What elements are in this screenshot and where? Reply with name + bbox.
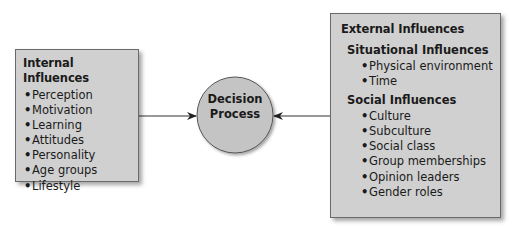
social-influences-list: Culture Subculture Social class Group me… <box>361 109 500 200</box>
external-influences-title: External Influences <box>341 22 500 37</box>
decision-process-line2: Process <box>197 107 273 122</box>
list-item: Subculture <box>361 124 500 139</box>
internal-influences-list: Perception Motivation Learning Attitudes… <box>23 88 138 194</box>
list-item: Group memberships <box>361 154 500 169</box>
social-influences-title: Social Influences <box>347 93 500 108</box>
internal-influences-title: Internal Influences <box>23 56 138 86</box>
list-item: Age groups <box>24 163 138 178</box>
decision-process-line1: Decision <box>197 92 273 107</box>
list-item: Motivation <box>24 103 138 118</box>
situational-influences-title: Situational Influences <box>347 43 500 58</box>
external-influences-box: External Influences Situational Influenc… <box>330 13 501 218</box>
list-item: Gender roles <box>361 185 500 200</box>
list-item: Culture <box>361 109 500 124</box>
decision-process-label: Decision Process <box>197 92 273 122</box>
list-item: Social class <box>361 139 500 154</box>
list-item: Perception <box>24 88 138 103</box>
list-item: Learning <box>24 118 138 133</box>
list-item: Opinion leaders <box>361 170 500 185</box>
list-item: Personality <box>24 148 138 163</box>
list-item: Attitudes <box>24 133 138 148</box>
list-item: Time <box>361 74 500 89</box>
situational-influences-list: Physical environment Time <box>361 59 500 89</box>
internal-influences-box: Internal Influences Perception Motivatio… <box>15 49 139 182</box>
list-item: Lifestyle <box>24 179 138 194</box>
list-item: Physical environment <box>361 59 500 74</box>
